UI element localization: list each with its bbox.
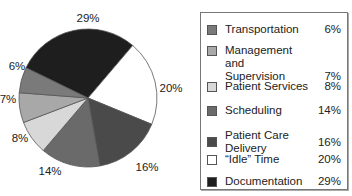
legend-item-idle-time: “Idle” Time 20% [207, 153, 341, 166]
swatch-icon [207, 155, 217, 165]
legend-label: Scheduling [225, 104, 313, 117]
swatch-icon [207, 137, 217, 147]
legend-item-patient-services: Patient Services 8% [207, 80, 341, 93]
swatch-icon [207, 82, 217, 92]
legend: Transportation 6% Management and Supervi… [200, 12, 348, 190]
legend-label: Management and Supervision [225, 44, 313, 83]
slice-label: 16% [135, 161, 158, 173]
legend-value: 8% [313, 80, 341, 93]
swatch-icon [207, 106, 217, 116]
slice-label: 14% [38, 165, 61, 177]
swatch-icon [207, 46, 217, 56]
legend-label: Documentation [225, 175, 313, 188]
legend-value: 14% [313, 104, 341, 117]
slice-label: 7% [0, 93, 16, 105]
swatch-icon [207, 25, 217, 35]
swatch-icon [207, 177, 217, 187]
legend-label: “Idle” Time [225, 153, 313, 166]
slice-label: 6% [9, 60, 26, 72]
legend-item-patient-care-delivery: Patient Care Delivery 16% [207, 129, 341, 155]
slice-label: 8% [12, 132, 29, 144]
slice-label: 29% [76, 12, 99, 24]
legend-label: Patient Services [225, 80, 313, 93]
legend-value: 6% [313, 23, 341, 36]
legend-value: 16% [313, 136, 341, 149]
legend-label: Transportation [225, 23, 313, 36]
legend-item-scheduling: Scheduling 14% [207, 104, 341, 117]
legend-item-transportation: Transportation 6% [207, 23, 341, 36]
legend-label: Patient Care Delivery [225, 129, 313, 155]
legend-value: 20% [313, 153, 341, 166]
legend-item-management: Management and Supervision 7% [207, 44, 341, 83]
slice-label: 20% [159, 82, 182, 94]
pie-chart: 29%20%16%14%8%7%6% [0, 0, 200, 196]
legend-item-documentation: Documentation 29% [207, 175, 341, 188]
legend-value: 29% [313, 175, 341, 188]
